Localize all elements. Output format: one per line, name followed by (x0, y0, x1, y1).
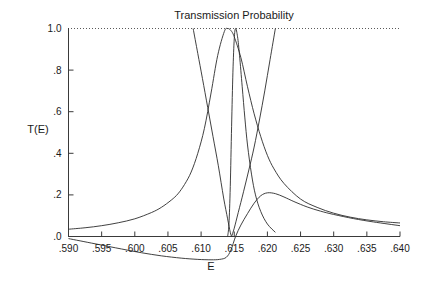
x-tick-label: .615 (225, 243, 245, 254)
x-tick-label: .605 (158, 243, 178, 254)
x-tick-label: .630 (324, 243, 344, 254)
y-tick-label: .8 (53, 65, 62, 76)
x-axis-label: E (207, 260, 214, 272)
x-tick-label: .640 (390, 243, 410, 254)
transmission-probability-plot: Transmission Probability 1.0.8.6.4.2.0 .… (0, 0, 424, 292)
y-tick-label: .0 (53, 231, 62, 242)
y-tick-label: .4 (53, 148, 62, 159)
x-tick-label: .590 (59, 243, 79, 254)
x-tick-label: .635 (357, 243, 377, 254)
x-tick-label: .610 (191, 243, 211, 254)
x-tick-label: .620 (258, 243, 278, 254)
y-tick-label: .6 (53, 106, 62, 117)
chart-title: Transmission Probability (174, 9, 294, 21)
y-axis-label: T(E) (27, 123, 48, 135)
x-tick-label: .625 (291, 243, 311, 254)
y-tick-label: 1.0 (48, 23, 62, 34)
y-tick-label: .2 (53, 189, 62, 200)
